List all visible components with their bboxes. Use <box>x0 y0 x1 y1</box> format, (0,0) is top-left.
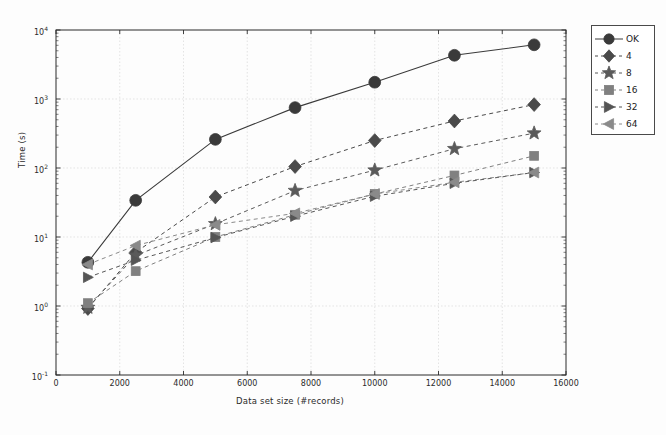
y-tick-label: 101 <box>22 232 48 244</box>
legend-item-ok[interactable]: OK <box>592 30 656 48</box>
data-point-diamond <box>368 134 381 148</box>
x-tick-label: 0 <box>34 379 78 388</box>
data-point-square <box>83 299 92 308</box>
legend-item-4[interactable]: 4 <box>592 47 656 65</box>
legend-label: 4 <box>626 51 654 61</box>
series-64 <box>82 167 539 270</box>
data-point-circle <box>369 76 381 88</box>
x-tick-label: 4000 <box>162 379 206 388</box>
legend-label: 32 <box>626 102 654 112</box>
data-point-diamond <box>289 160 302 174</box>
legend-marker-diamond-icon <box>592 47 626 65</box>
data-point-circle <box>209 133 221 145</box>
data-point-diamond <box>603 50 614 62</box>
data-point-circle <box>604 34 614 44</box>
legend-label: 8 <box>626 68 654 78</box>
legend-item-16[interactable]: 16 <box>592 81 656 99</box>
x-tick-label: 6000 <box>225 379 269 388</box>
x-tick-label: 8000 <box>289 379 333 388</box>
legend-marker-circle-icon <box>592 30 626 48</box>
y-tick-label: 104 <box>22 25 48 37</box>
data-point-square <box>604 85 613 94</box>
legend-marker-triangle-right-icon <box>592 98 626 116</box>
y-tick-label: 102 <box>22 163 48 175</box>
legend-label: 64 <box>626 119 654 129</box>
data-point-circle <box>449 49 461 61</box>
legend-item-32[interactable]: 32 <box>592 98 656 116</box>
data-point-star <box>448 141 462 154</box>
chart-canvas <box>0 0 666 435</box>
series-32 <box>83 167 539 282</box>
data-point-star <box>602 66 615 79</box>
y-tick-label: 100 <box>22 301 48 313</box>
x-tick-label: 2000 <box>98 379 142 388</box>
data-point-star <box>527 126 541 139</box>
data-point-circle <box>130 194 142 206</box>
legend-label: OK <box>626 34 654 44</box>
data-point-diamond <box>448 114 461 128</box>
data-point-triangle-left <box>603 119 613 130</box>
data-point-diamond <box>209 190 222 204</box>
x-tick-label: 10000 <box>353 379 397 388</box>
x-axis-label: Data set size (#records) <box>236 396 344 406</box>
figure: Time (s) Data set size (#records) 10-110… <box>0 0 666 435</box>
legend-marker-triangle-left-icon <box>592 115 626 133</box>
data-point-star <box>288 183 302 196</box>
y-tick-label: 103 <box>22 94 48 106</box>
data-point-triangle-right <box>83 272 93 282</box>
x-tick-label: 12000 <box>417 379 461 388</box>
data-point-triangle-right <box>604 102 614 113</box>
x-tick-label: 16000 <box>544 379 588 388</box>
legend-marker-star-icon <box>592 64 626 82</box>
data-point-square <box>131 267 140 276</box>
x-tick-label: 14000 <box>480 379 524 388</box>
legend-label: 16 <box>626 85 654 95</box>
legend-item-64[interactable]: 64 <box>592 115 656 133</box>
data-point-circle <box>289 102 301 114</box>
legend-item-8[interactable]: 8 <box>592 64 656 82</box>
data-point-square <box>530 151 539 160</box>
legend-marker-square-icon <box>592 81 626 99</box>
data-point-circle <box>528 39 540 51</box>
chart-legend: OK48163264 <box>591 25 655 135</box>
data-point-diamond <box>528 98 541 112</box>
